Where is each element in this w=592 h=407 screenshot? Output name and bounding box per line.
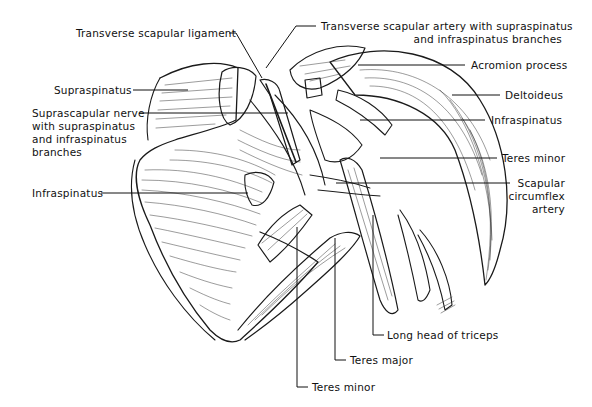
label-acromion-process: Acromion process [471, 59, 567, 72]
label-teres-major: Teres major [350, 354, 413, 367]
label-suprascapular-nerve-line1: Suprascapular nerve [32, 107, 145, 120]
acromion-drawing [290, 46, 365, 89]
label-transverse-scapular-ligament: Transverse scapular ligament [76, 27, 236, 40]
label-infraspinatus-left: Infraspinatus [32, 187, 103, 200]
label-infraspinatus-right: Infraspinatus [491, 114, 562, 127]
teres-muscles-drawing [238, 205, 360, 340]
label-transverse-scapular-artery-line1: Transverse scapular artery with supraspi… [321, 20, 573, 33]
label-teres-minor-right: Teres minor [502, 152, 565, 165]
label-deltoideus: Deltoideus [505, 89, 563, 102]
label-scapular-circumflex-line3: artery [532, 203, 565, 216]
anatomy-illustration: Transverse scapular ligament Transverse … [0, 0, 592, 407]
scapula-drawing [132, 63, 318, 342]
deltoid-muscle-drawing [330, 51, 507, 285]
label-suprascapular-nerve-line2: with supraspinatus [32, 120, 135, 133]
label-supraspinatus: Supraspinatus [54, 84, 132, 97]
label-suprascapular-nerve-line3: and infraspinatus [32, 133, 127, 146]
label-long-head-of-triceps: Long head of triceps [387, 329, 498, 342]
label-transverse-scapular-artery-line2: and infraspinatus branches [414, 33, 562, 46]
label-scapular-circumflex-line2: circumflex [508, 190, 565, 203]
label-teres-minor-bottom: Teres minor [312, 381, 375, 394]
label-suprascapular-nerve-line4: branches [32, 146, 82, 159]
triceps-long-head-drawing [340, 158, 452, 314]
label-scapular-circumflex-line1: Scapular [518, 177, 565, 190]
